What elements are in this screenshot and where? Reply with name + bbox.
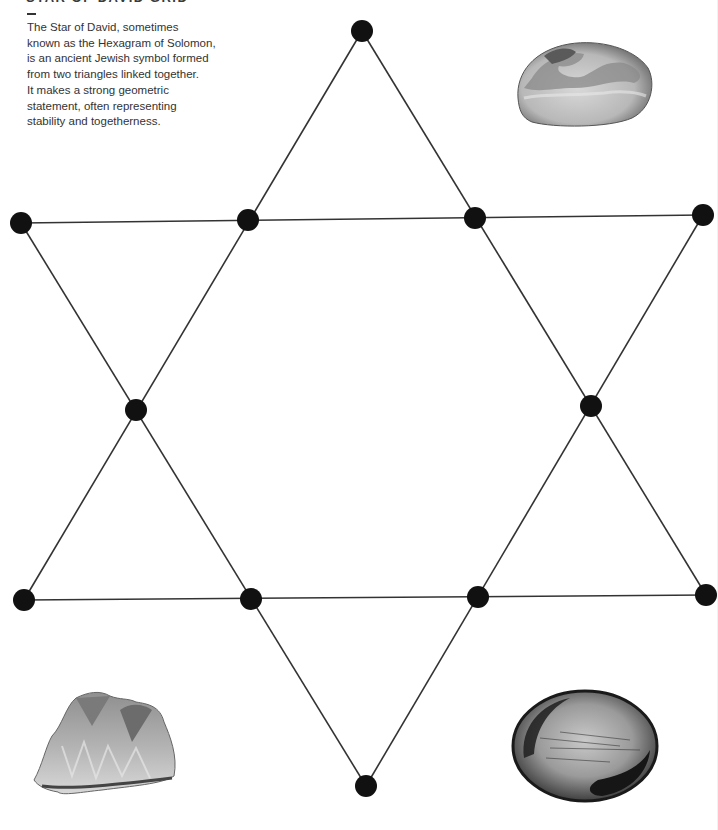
grid-node-upper-left-outer <box>10 212 32 234</box>
banded-stone-image <box>514 38 654 128</box>
grid-node-lower-left-inner <box>240 588 262 610</box>
crystal-cluster-image <box>32 686 182 798</box>
grid-node-mid-left <box>125 399 147 421</box>
grid-node-mid-right <box>580 395 602 417</box>
grid-node-upper-right-outer <box>692 204 714 226</box>
grid-lines <box>21 31 706 786</box>
grid-node-upper-left-inner <box>237 209 259 231</box>
grid-node-lower-right-inner <box>467 586 489 608</box>
grid-node-top <box>351 20 373 42</box>
grid-node-lower-right-outer <box>695 584 717 606</box>
grid-nodes <box>10 20 717 797</box>
grid-node-lower-left-outer <box>13 589 35 611</box>
upward-triangle-edge <box>24 31 362 600</box>
grid-node-upper-right-inner <box>464 207 486 229</box>
upward-triangle-edge <box>24 595 706 600</box>
grid-node-bottom <box>355 775 377 797</box>
hematite-stone-image <box>510 688 660 806</box>
downward-triangle-edge <box>21 215 703 223</box>
